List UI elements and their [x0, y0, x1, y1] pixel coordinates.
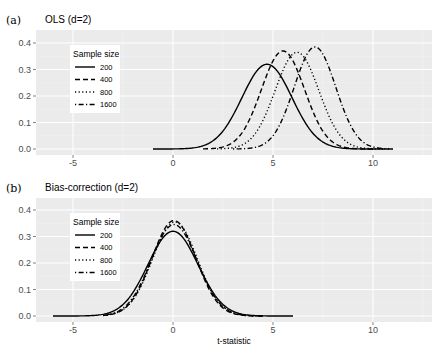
- x-tick-label: -5: [69, 325, 77, 335]
- x-tick-label: -5: [69, 158, 77, 168]
- x-axis-label: t-statistic: [217, 336, 251, 346]
- y-tick-label: 0.4: [18, 205, 31, 215]
- x-tick-label: 0: [170, 325, 175, 335]
- legend-label-400: 400: [100, 243, 113, 252]
- y-tick-label: 0.3: [18, 232, 31, 242]
- panel-label: (b): [6, 182, 22, 195]
- x-tick-label: 5: [270, 158, 275, 168]
- panel-label: (a): [6, 14, 21, 27]
- legend-label-400: 400: [100, 75, 113, 84]
- legend-label-200: 200: [100, 231, 113, 240]
- legend-label-1600: 1600: [100, 268, 117, 277]
- legend-label-800: 800: [100, 88, 113, 97]
- y-tick-label: 0.3: [18, 65, 31, 75]
- legend-label-800: 800: [100, 256, 113, 265]
- x-tick-label: 5: [270, 325, 275, 335]
- legend-title: Sample size: [73, 49, 120, 59]
- chart-figure: -505100.00.10.20.30.4(a)OLS (d=2)Sample …: [0, 0, 447, 357]
- y-tick-label: 0.2: [18, 258, 31, 268]
- legend-title: Sample size: [73, 217, 120, 227]
- x-tick-label: 0: [170, 158, 175, 168]
- legend-label-200: 200: [100, 63, 113, 72]
- y-tick-label: 0.1: [18, 118, 31, 128]
- x-tick-label: 10: [368, 158, 378, 168]
- y-tick-label: 0.1: [18, 285, 31, 295]
- legend-label-1600: 1600: [100, 100, 117, 109]
- y-tick-label: 0.0: [18, 311, 31, 321]
- y-tick-label: 0.0: [18, 144, 31, 154]
- panel-title: OLS (d=2): [45, 14, 91, 25]
- y-tick-label: 0.2: [18, 91, 31, 101]
- panel-title: Bias-correction (d=2): [45, 182, 138, 193]
- y-tick-label: 0.4: [18, 38, 31, 48]
- x-tick-label: 10: [368, 325, 378, 335]
